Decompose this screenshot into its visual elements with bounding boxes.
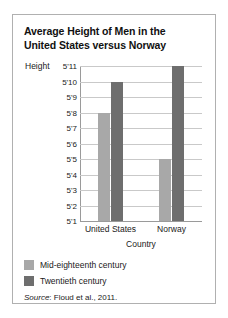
y-axis-tick-label: 5'1 bbox=[51, 217, 77, 226]
plot-area bbox=[80, 66, 202, 221]
source-text: : Floud et al., 2011. bbox=[49, 293, 117, 302]
y-axis-tick-label: 5'2 bbox=[51, 201, 77, 210]
bar bbox=[159, 159, 171, 221]
plot-wrap: Height 5'115'105'95'85'75'65'55'45'35'25… bbox=[13, 61, 217, 253]
legend-item: Twentieth century bbox=[24, 274, 204, 288]
x-axis-tick-labels: United StatesNorway bbox=[80, 224, 202, 238]
x-axis-tick-label: Norway bbox=[157, 224, 186, 234]
legend-item: Mid-eighteenth century bbox=[24, 258, 204, 272]
figure-card: Average Height of Men in the United Stat… bbox=[12, 14, 216, 304]
chart-title: Average Height of Men in the United Stat… bbox=[24, 24, 208, 52]
legend-label: Twentieth century bbox=[40, 276, 107, 286]
legend-swatch bbox=[24, 276, 34, 286]
bar bbox=[111, 82, 123, 222]
chart-legend: Mid-eighteenth centuryTwentieth century bbox=[24, 258, 204, 290]
bar bbox=[98, 113, 110, 222]
y-axis-tick-label: 5'5 bbox=[51, 155, 77, 164]
y-axis-tick-label: 5'6 bbox=[51, 139, 77, 148]
y-axis-tick-label: 5'11 bbox=[51, 62, 77, 71]
source-label: Source bbox=[24, 293, 49, 302]
y-axis-tick-label: 5'9 bbox=[51, 93, 77, 102]
legend-label: Mid-eighteenth century bbox=[40, 260, 126, 270]
x-axis-tick-label: United States bbox=[85, 224, 136, 234]
y-axis-tick-label: 5'4 bbox=[51, 170, 77, 179]
chart-title-line-1: Average Height of Men in the bbox=[24, 25, 166, 37]
bar bbox=[172, 66, 184, 221]
legend-swatch bbox=[24, 260, 34, 270]
gridline bbox=[80, 221, 202, 222]
y-axis-tick-labels: 5'115'105'95'85'75'65'55'45'35'25'1 bbox=[49, 66, 77, 221]
y-axis-tick-label: 5'10 bbox=[51, 77, 77, 86]
y-axis-tick-label: 5'7 bbox=[51, 124, 77, 133]
y-axis-tick-label: 5'3 bbox=[51, 186, 77, 195]
y-axis-title: Height bbox=[25, 61, 50, 71]
x-axis-title: Country bbox=[80, 239, 202, 249]
y-axis-tick-label: 5'8 bbox=[51, 108, 77, 117]
chart-title-line-2: United States versus Norway bbox=[24, 39, 166, 51]
source-note: Source: Floud et al., 2011. bbox=[24, 293, 117, 302]
